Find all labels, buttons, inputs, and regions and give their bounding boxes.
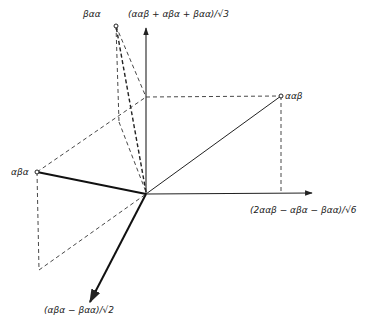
vector-alpha-beta-alpha — [37, 172, 146, 194]
label-horizontal-axis: (2ααβ − αβα − βαα)/√6 — [250, 205, 357, 215]
point-beta-alpha-alpha — [114, 24, 118, 28]
projection-aba-vertical — [37, 172, 39, 270]
label-beta-alpha-alpha: βαα — [82, 9, 101, 19]
point-alpha-beta-alpha — [35, 170, 39, 174]
label-vertical-axis: (ααβ + αβα + βαα)/√3 — [128, 9, 229, 19]
point-alpha-alpha-beta — [279, 94, 283, 98]
projection-aab-horizontal — [146, 96, 281, 97]
diagonal-axis — [90, 194, 146, 302]
spin-function-vector-diagram: βαα (ααβ + αβα + βαα)/√3 ααβ αβα (2ααβ −… — [0, 0, 375, 327]
projection-aba-to-axis — [37, 97, 146, 172]
projection-baa-left-down — [119, 122, 146, 192]
horizontal-axis — [146, 193, 312, 194]
vector-beta-alpha-alpha — [116, 26, 146, 192]
projection-baa-to-axis — [116, 26, 146, 97]
label-alpha-beta-alpha: αβα — [11, 167, 29, 177]
projection-baa-left — [116, 26, 119, 122]
label-diagonal-axis: (αβα − βαα)/√2 — [44, 305, 114, 315]
projection-aba-bottom — [39, 194, 146, 270]
label-alpha-alpha-beta: ααβ — [285, 91, 303, 101]
vector-alpha-alpha-beta — [146, 96, 281, 194]
